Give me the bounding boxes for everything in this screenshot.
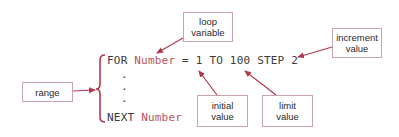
loop-variable-name: Number xyxy=(134,54,175,67)
initial-value-label-line1: initial xyxy=(212,100,234,111)
initial-value-label-line2: value xyxy=(211,111,234,122)
loop-variable-label: loop variable xyxy=(183,12,233,42)
range-label-text: range xyxy=(35,87,59,98)
for-loop-diagram: FOR Number = 1 TO 100 STEP 2 . . . NEXT … xyxy=(0,0,399,137)
limit-value-literal: 100 xyxy=(230,54,250,67)
limit-value-label-line1: limit xyxy=(279,100,296,111)
limit-value-arrow xyxy=(245,71,276,95)
for-statement: FOR Number = 1 TO 100 STEP 2 xyxy=(107,54,298,67)
limit-value-label: limit value xyxy=(262,95,313,127)
increment-value-label: increment value xyxy=(332,28,382,58)
limit-value-label-line2: value xyxy=(276,111,299,122)
loop-variable-arrow xyxy=(157,38,183,53)
increment-value-arrow xyxy=(298,47,332,57)
increment-value-label-line2: value xyxy=(346,43,369,54)
keyword-for: FOR xyxy=(107,54,127,67)
range-arrow xyxy=(73,90,95,91)
range-label: range xyxy=(22,82,73,102)
initial-value-arrow xyxy=(199,71,217,95)
equals-sign: = xyxy=(182,54,189,67)
next-variable-name: Number xyxy=(141,111,182,124)
keyword-to: TO xyxy=(209,54,223,67)
keyword-step: STEP xyxy=(257,54,284,67)
loop-variable-label-line1: loop xyxy=(199,16,217,27)
initial-value-literal: 1 xyxy=(196,54,203,67)
ellipsis-dot: . xyxy=(121,92,128,105)
initial-value-label: initial value xyxy=(197,95,248,127)
keyword-next: NEXT xyxy=(107,111,134,124)
range-brace xyxy=(96,55,105,122)
loop-variable-label-line2: variable xyxy=(191,27,224,38)
increment-value-literal: 2 xyxy=(291,54,298,67)
increment-value-label-line1: increment xyxy=(336,32,378,43)
next-statement: NEXT Number xyxy=(107,111,182,124)
